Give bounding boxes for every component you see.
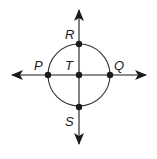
point-P bbox=[45, 72, 51, 78]
point-Q bbox=[107, 72, 113, 78]
point-T bbox=[76, 72, 82, 78]
label-T: T bbox=[65, 58, 74, 73]
label-S: S bbox=[65, 114, 74, 129]
point-S bbox=[76, 104, 82, 110]
label-Q: Q bbox=[114, 58, 124, 73]
point-R bbox=[76, 41, 82, 47]
geometry-diagram: RPTQS bbox=[0, 0, 157, 159]
label-P: P bbox=[34, 58, 43, 73]
label-R: R bbox=[65, 27, 74, 42]
